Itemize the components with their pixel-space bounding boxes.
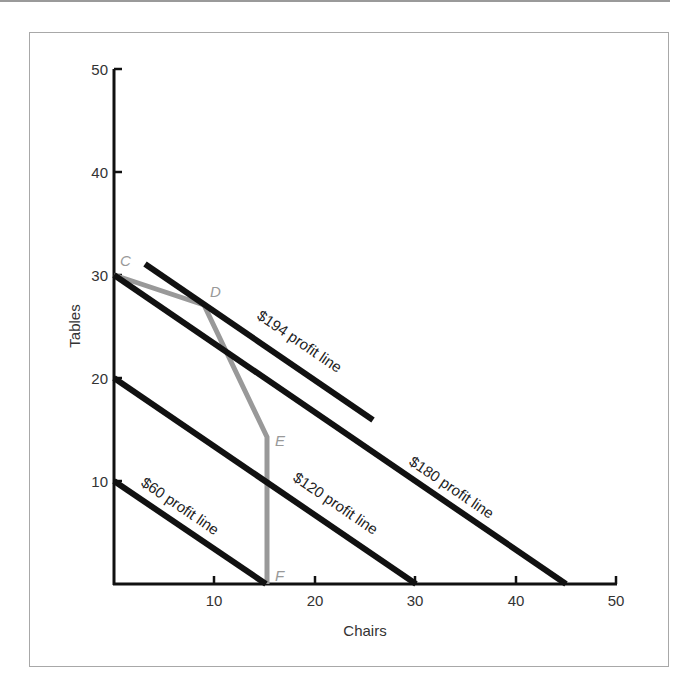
profit-lines [114,264,566,584]
y-tick-10: 10 [91,473,108,490]
x-tick-40: 40 [508,592,525,609]
x-axis-title: Chairs [343,622,386,639]
y-tick-50: 50 [91,61,108,78]
vertex-d: D [210,283,221,300]
vertex-c: C [120,252,131,269]
vertex-e: E [275,432,286,449]
chart: 50 40 30 20 10 10 20 30 40 50 Chairs Tab… [0,0,676,697]
profit-line-180 [114,275,566,584]
profit-line-194 [145,264,373,420]
y-tick-40: 40 [91,164,108,181]
x-tick-30: 30 [407,592,424,609]
vertex-f: F [275,567,285,584]
x-tick-50: 50 [608,592,625,609]
y-tick-30: 30 [91,267,108,284]
y-axis-title: Tables [66,304,83,347]
y-tick-20: 20 [91,370,108,387]
x-tick-20: 20 [307,592,324,609]
profit-line-60 [114,481,266,584]
x-tick-10: 10 [206,592,223,609]
label-profit-194: $194 profit line [254,306,345,375]
